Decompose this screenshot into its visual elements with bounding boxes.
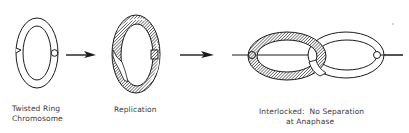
label-line: Chromosome — [12, 114, 63, 124]
label-line: Replication — [114, 105, 157, 115]
label-interlocked: Interlocked: No Separation at Anaphase — [259, 107, 364, 127]
speck — [392, 23, 394, 25]
label-line: Interlocked: No Separation — [259, 107, 364, 117]
label-twisted-ring: Twisted Ring Chromosome — [12, 104, 63, 124]
label-replication: Replication — [114, 105, 157, 115]
label-line: Twisted Ring — [12, 104, 63, 114]
label-line: at Anaphase — [259, 117, 364, 127]
